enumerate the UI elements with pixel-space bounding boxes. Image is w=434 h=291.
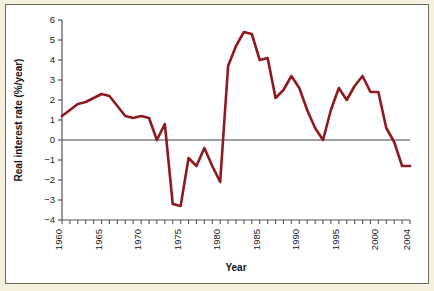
y-tick-label: −3 <box>44 194 55 205</box>
y-tick-label: 3 <box>50 74 55 85</box>
chart-area: 6543210−1−2−3−41960196519701975198019851… <box>6 5 430 285</box>
y-tick-label: 4 <box>50 54 55 65</box>
x-tick-label: 1960 <box>53 229 64 250</box>
y-tick-label: −1 <box>44 154 55 165</box>
figure-frame: 6543210−1−2−3−41960196519701975198019851… <box>5 4 429 284</box>
figure-root: 6543210−1−2−3−41960196519701975198019851… <box>0 0 434 291</box>
y-tick-label: 2 <box>50 94 55 105</box>
y-tick-label: 1 <box>50 114 55 125</box>
x-tick-label: 1995 <box>330 229 341 250</box>
x-tick-label: 1980 <box>211 229 222 250</box>
real-interest-rate-line-chart: 6543210−1−2−3−41960196519701975198019851… <box>6 5 430 285</box>
x-tick-label: 1985 <box>251 229 262 250</box>
x-tick-label: 2004 <box>401 229 412 250</box>
y-tick-label: 5 <box>50 34 55 45</box>
y-tick-label: 0 <box>50 134 55 145</box>
x-tick-label: 1965 <box>93 229 104 250</box>
y-tick-label: −2 <box>44 174 55 185</box>
x-tick-label: 2000 <box>369 229 380 250</box>
x-tick-label: 1990 <box>290 229 301 250</box>
x-tick-label: 1970 <box>132 229 143 250</box>
y-axis-title: Real interest rate (%/year) <box>13 59 24 182</box>
data-line-real-interest-rate <box>62 32 410 206</box>
y-tick-label: −4 <box>44 214 55 225</box>
y-tick-label: 6 <box>50 14 55 25</box>
x-axis-title: Year <box>225 262 246 273</box>
x-tick-label: 1975 <box>172 229 183 250</box>
